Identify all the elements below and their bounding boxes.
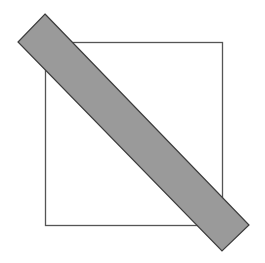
diagram-canvas xyxy=(0,0,265,263)
diagram-svg xyxy=(0,0,265,263)
diagonal-band xyxy=(18,14,249,251)
